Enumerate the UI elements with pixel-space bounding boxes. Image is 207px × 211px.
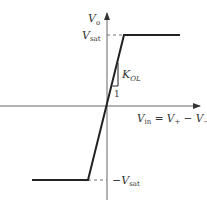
x-axis-label: Vin = V+ − V− — [137, 112, 207, 126]
transfer-characteristic-diagram: Vo Vsat KOL 1 Vin = V+ − V− −Vsat — [0, 0, 207, 211]
slope-run-label: 1 — [114, 89, 120, 99]
neg-vsat-label: −Vsat — [112, 174, 140, 188]
kol-label: KOL — [121, 68, 141, 83]
y-axis-label: Vo — [88, 12, 100, 27]
vsat-label: Vsat — [82, 29, 101, 43]
transfer-curve — [32, 35, 180, 180]
